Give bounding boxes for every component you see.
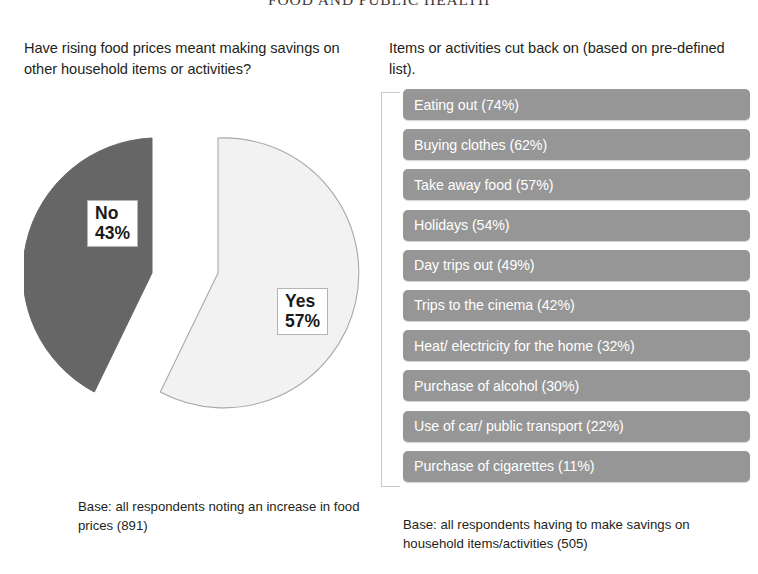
bar-item: Holidays (54%) [403,210,750,241]
pie-label-no-text: No [95,203,130,223]
bar-item-label: Trips to the cinema (42%) [403,297,575,313]
bar-item-label: Take away food (57%) [403,177,553,193]
pie-slice-yes [160,138,359,408]
bar-list: Eating out (74%) Buying clothes (62%) Ta… [403,89,750,491]
bar-item-label: Buying clothes (62%) [403,137,547,153]
right-column: Items or activities cut back on (based o… [389,38,751,79]
bar-item: Trips to the cinema (42%) [403,290,750,321]
list-grouping-bracket [381,92,400,487]
bar-item-label: Eating out (74%) [403,97,519,113]
pie-chart: No 43% Yes 57% [24,128,364,418]
bar-item: Take away food (57%) [403,169,750,200]
bar-item-label: Heat/ electricity for the home (32%) [403,338,635,354]
bar-item: Eating out (74%) [403,89,750,120]
bar-item-label: Purchase of cigarettes (11%) [403,458,595,474]
bar-item: Heat/ electricity for the home (32%) [403,330,750,361]
pie-slice-no [24,138,152,392]
pie-label-no: No 43% [87,200,138,247]
bar-item-label: Holidays (54%) [403,217,510,233]
running-head: FOOD AND PUBLIC HEALTH [0,0,758,9]
bar-list-title: Items or activities cut back on (based o… [389,38,751,79]
bar-item: Buying clothes (62%) [403,129,750,160]
bar-item: Day trips out (49%) [403,250,750,281]
pie-chart-svg [24,128,364,418]
bar-item-label: Use of car/ public transport (22%) [403,418,624,434]
pie-label-yes-value: 57% [285,311,320,331]
pie-label-yes-text: Yes [285,291,320,311]
bar-item-label: Day trips out (49%) [403,257,534,273]
left-column: Have rising food prices meant making sav… [24,38,374,79]
bar-item-label: Purchase of alcohol (30%) [403,378,579,394]
pie-chart-base-note: Base: all respondents noting an increase… [78,497,368,535]
pie-label-no-value: 43% [95,223,130,243]
bar-item: Purchase of cigarettes (11%) [403,451,750,482]
bar-list-base-note: Base: all respondents having to make sav… [403,515,748,553]
pie-label-yes: Yes 57% [277,288,328,335]
bar-item: Purchase of alcohol (30%) [403,370,750,401]
pie-chart-question: Have rising food prices meant making sav… [24,38,374,79]
bar-item: Use of car/ public transport (22%) [403,411,750,442]
